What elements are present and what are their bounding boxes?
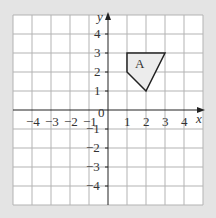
svg-text:−3: −3 — [86, 159, 100, 174]
svg-text:2: 2 — [143, 114, 150, 129]
y-axis-label: y — [95, 9, 103, 24]
origin-label: 0 — [98, 105, 105, 120]
svg-text:−2: −2 — [64, 114, 78, 129]
svg-text:−2: −2 — [86, 140, 100, 155]
svg-text:−4: −4 — [86, 178, 100, 193]
svg-text:−3: −3 — [45, 114, 59, 129]
svg-text:4: 4 — [181, 114, 188, 129]
svg-text:1: 1 — [124, 114, 131, 129]
svg-text:2: 2 — [94, 64, 101, 79]
shape-a-label: A — [135, 56, 145, 71]
svg-text:1: 1 — [94, 83, 101, 98]
svg-text:3: 3 — [162, 114, 169, 129]
svg-text:−1: −1 — [83, 114, 97, 129]
svg-text:−4: −4 — [26, 114, 40, 129]
coordinate-grid: A y x 0 4 3 2 1 −1 −2 −3 −4 −4 −3 −2 −1 … — [0, 0, 216, 218]
svg-text:3: 3 — [94, 45, 101, 60]
svg-text:4: 4 — [94, 26, 101, 41]
x-axis-label: x — [195, 111, 202, 126]
